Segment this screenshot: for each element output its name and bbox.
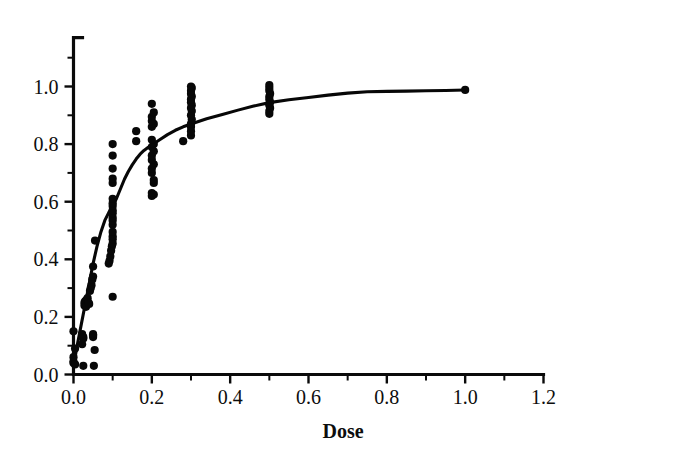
x-tick-label: 0.8 <box>374 386 399 408</box>
data-point <box>132 137 140 145</box>
data-point <box>461 86 469 94</box>
x-tick-label: 0.6 <box>296 386 321 408</box>
x-tick-label: 0.2 <box>139 386 164 408</box>
x-axis-title: Dose <box>322 420 363 442</box>
data-point <box>109 164 117 172</box>
data-point <box>179 137 187 145</box>
data-point <box>187 82 195 90</box>
data-point <box>265 81 273 89</box>
data-point <box>71 360 79 368</box>
data-point <box>150 190 158 198</box>
data-point <box>109 293 117 301</box>
y-tick-label: 0.0 <box>34 364 59 386</box>
data-point <box>150 108 158 116</box>
chart-canvas: 0.00.20.40.60.81.01.2 0.00.20.40.60.81.0… <box>0 0 681 456</box>
y-tick-label: 1.0 <box>34 76 59 98</box>
dose-response-figure: 0.00.20.40.60.81.01.2 0.00.20.40.60.81.0… <box>0 0 681 456</box>
data-point <box>148 136 156 144</box>
data-point <box>148 100 156 108</box>
y-tick-label: 0.8 <box>34 133 59 155</box>
x-tick-label: 1.2 <box>531 386 556 408</box>
data-point <box>89 272 97 280</box>
data-point <box>109 228 117 236</box>
data-point <box>79 333 87 341</box>
data-point <box>132 127 140 135</box>
y-tick-label: 0.4 <box>34 248 59 270</box>
data-point <box>89 330 97 338</box>
data-point <box>109 140 117 148</box>
x-tick-label: 1.0 <box>453 386 478 408</box>
data-point <box>91 236 99 244</box>
data-point <box>79 362 87 370</box>
data-point <box>109 175 117 183</box>
data-point <box>91 346 99 354</box>
x-tick-label: 0.4 <box>218 386 243 408</box>
x-tick-label: 0.0 <box>61 386 86 408</box>
y-tick-label: 0.2 <box>34 306 59 328</box>
data-point <box>69 327 77 335</box>
data-point <box>109 195 117 203</box>
data-point <box>69 353 77 361</box>
data-point <box>109 152 117 160</box>
y-tick-label: 0.6 <box>34 191 59 213</box>
data-point <box>150 176 158 184</box>
data-point <box>90 362 98 370</box>
data-point <box>71 344 79 352</box>
data-point <box>89 262 97 270</box>
data-point <box>85 300 93 308</box>
